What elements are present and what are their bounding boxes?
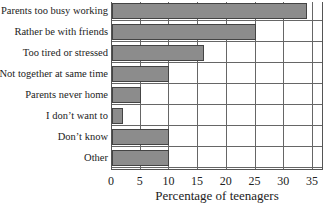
- category-label: Too tired or stressed: [23, 47, 108, 58]
- x-tick-label: 25: [249, 174, 261, 189]
- gridline: [283, 2, 284, 169]
- plot-area: [111, 2, 323, 170]
- row-separator: [112, 62, 322, 63]
- row-separator: [112, 83, 322, 84]
- category-label: Other: [84, 152, 108, 163]
- bar: [112, 3, 307, 19]
- x-tick-label: 30: [277, 174, 289, 189]
- category-label: I don’t want to: [46, 110, 108, 121]
- bar: [112, 108, 123, 124]
- bar: [112, 87, 141, 103]
- row-separator: [112, 20, 322, 21]
- gridline: [312, 2, 313, 169]
- category-label: Not together at same time: [0, 68, 108, 79]
- bar: [112, 24, 256, 40]
- bar: [112, 45, 204, 61]
- x-axis-label: Percentage of teenagers: [111, 188, 323, 204]
- row-separator: [112, 146, 322, 147]
- x-tick-label: 35: [306, 174, 318, 189]
- category-label: Parents too busy working: [1, 5, 108, 16]
- x-tick-label: 0: [108, 174, 114, 189]
- row-separator: [112, 125, 322, 126]
- row-separator: [112, 104, 322, 105]
- x-tick-label: 5: [137, 174, 143, 189]
- category-label: Rather be with friends: [14, 26, 108, 37]
- row-separator: [112, 41, 322, 42]
- bar: [112, 66, 169, 82]
- category-label: Parents never home: [25, 89, 108, 100]
- bar: [112, 150, 169, 166]
- x-tick-label: 10: [162, 174, 174, 189]
- bar: [112, 129, 169, 145]
- row-separator: [112, 167, 322, 168]
- x-tick-label: 20: [220, 174, 232, 189]
- x-tick-label: 15: [191, 174, 203, 189]
- category-label: Don’t know: [58, 131, 108, 142]
